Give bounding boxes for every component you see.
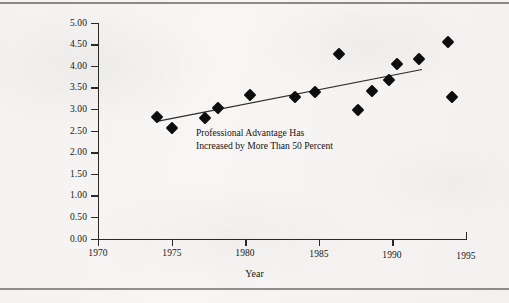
chart-annotation-line-2: Increased by More Than 50 Percent (196, 139, 333, 152)
x-axis-label: Year (0, 268, 509, 279)
chart-annotation-line-1: Professional Advantage Has (196, 126, 333, 139)
y-axis-label: Ratio of Percentage of College-Educated … (0, 0, 60, 260)
chart-annotation: Professional Advantage Has Increased by … (196, 126, 333, 152)
figure-page: Ratio of Percentage of College-Educated … (0, 0, 509, 303)
